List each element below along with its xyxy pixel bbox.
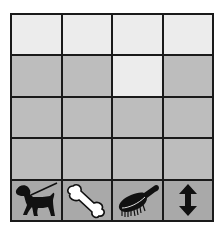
board-cell-r2-c1[interactable] bbox=[63, 98, 112, 137]
board-cell-r1-c3[interactable] bbox=[164, 56, 213, 95]
bone-tool-button[interactable] bbox=[63, 181, 112, 220]
move-tool-button[interactable] bbox=[164, 181, 213, 220]
board-cell-r2-c3[interactable] bbox=[164, 98, 213, 137]
board-cell-r3-c2[interactable] bbox=[113, 139, 162, 178]
vertical-arrows-icon bbox=[165, 181, 211, 219]
brush-tool-button[interactable] bbox=[113, 181, 162, 220]
board-cell-r3-c1[interactable] bbox=[63, 139, 112, 178]
board-cell-r1-c0[interactable] bbox=[12, 56, 61, 95]
board-cell-r2-c2[interactable] bbox=[113, 98, 162, 137]
board-cell-r3-c3[interactable] bbox=[164, 139, 213, 178]
board-cell-r3-c0[interactable] bbox=[12, 139, 61, 178]
board-cell-r0-c1[interactable] bbox=[63, 15, 112, 54]
board-cell-r0-c3[interactable] bbox=[164, 15, 213, 54]
board-cell-r0-c2[interactable] bbox=[113, 15, 162, 54]
hairbrush-icon bbox=[114, 181, 160, 219]
dog-on-leash-icon bbox=[13, 181, 59, 219]
board-cell-r0-c0[interactable] bbox=[12, 15, 61, 54]
board-cell-r1-c1[interactable] bbox=[63, 56, 112, 95]
dog-tool-button[interactable] bbox=[12, 181, 61, 220]
board-cell-r1-c2[interactable] bbox=[113, 56, 162, 95]
bone-icon bbox=[64, 181, 110, 219]
game-board bbox=[10, 13, 214, 222]
board-cell-r2-c0[interactable] bbox=[12, 98, 61, 137]
